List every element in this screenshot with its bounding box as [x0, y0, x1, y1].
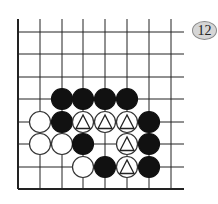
white-stone: [30, 134, 51, 155]
diagram-number: 12: [198, 24, 212, 38]
white-stone: [73, 157, 94, 178]
black-stone: [139, 157, 160, 178]
black-stone: [95, 89, 116, 110]
black-stone: [117, 89, 138, 110]
go-board: [0, 0, 218, 204]
white-stone: [30, 112, 51, 133]
black-stone: [139, 134, 160, 155]
black-stone: [73, 134, 94, 155]
black-stone: [73, 89, 94, 110]
black-stone: [139, 112, 160, 133]
stones-layer: [30, 89, 160, 178]
black-stone: [95, 157, 116, 178]
diagram-number-badge: 12: [192, 21, 217, 40]
black-stone: [52, 89, 73, 110]
black-stone: [52, 112, 73, 133]
white-stone: [52, 134, 73, 155]
